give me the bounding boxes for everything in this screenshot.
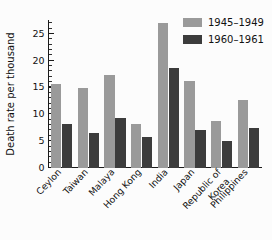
- legend-label: 1945–1949: [208, 17, 264, 28]
- bar: [78, 88, 88, 167]
- y-tick-label: 20: [32, 55, 44, 66]
- legend-swatch: [183, 35, 202, 44]
- y-tick-label: 0: [38, 162, 44, 173]
- bar: [169, 68, 179, 167]
- bar: [184, 81, 194, 168]
- bar: [249, 128, 259, 167]
- bar: [104, 75, 114, 167]
- bar: [131, 124, 141, 168]
- y-tick-label: 25: [32, 28, 44, 39]
- bar: [62, 124, 72, 168]
- bar-chart: 0510152025 CeylonTaiwanMalayaHong KongIn…: [0, 0, 272, 240]
- bar: [142, 137, 152, 167]
- bar: [51, 84, 61, 168]
- bar: [195, 130, 205, 168]
- bar: [115, 118, 125, 167]
- bar: [238, 100, 248, 167]
- legend-swatch: [183, 18, 202, 27]
- y-tick-label: 10: [32, 108, 44, 119]
- bar: [158, 23, 168, 168]
- y-tick-label: 5: [38, 135, 44, 146]
- y-axis-title: Death rate per thousand: [5, 32, 16, 155]
- bar: [222, 141, 232, 168]
- legend-label: 1960–1961: [208, 34, 264, 45]
- bar: [89, 133, 99, 168]
- bar: [211, 121, 221, 168]
- y-tick-label: 15: [32, 81, 44, 92]
- chart-container: 0510152025 CeylonTaiwanMalayaHong KongIn…: [0, 0, 272, 240]
